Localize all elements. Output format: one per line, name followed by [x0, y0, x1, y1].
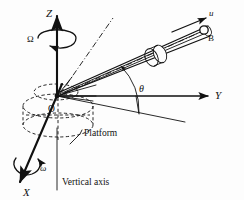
- theta-label: θ: [139, 83, 144, 94]
- inclined-tube: [60, 25, 213, 95]
- axis-y-label: Y: [215, 89, 223, 101]
- vertical-axis-annotation: Vertical axis: [62, 177, 110, 187]
- omega-upper-label: Ω: [27, 34, 34, 44]
- kinematics-diagram: Z Y X: [0, 0, 244, 200]
- bead-circle: [200, 26, 208, 34]
- collar-front-ellipse: [151, 43, 170, 65]
- theta-angle: θ: [121, 66, 144, 113]
- fan-line-3: [57, 96, 93, 101]
- tube-upper-wall: [60, 26, 208, 92]
- platform-annotation: Platform: [70, 128, 118, 144]
- figure-canvas: Z Y X: [0, 0, 244, 200]
- axis-x-label: X: [22, 186, 31, 198]
- platform-label: Platform: [84, 128, 118, 138]
- origin-label: O: [48, 104, 55, 114]
- axis-z: Z: [46, 7, 57, 96]
- omega-lower-label: ω: [40, 163, 46, 173]
- platform-leader-line: [70, 130, 82, 144]
- theta-arc: [121, 66, 139, 113]
- collar-bottom-edge: [154, 62, 163, 66]
- bead-label: B: [208, 33, 214, 43]
- vertical-axis-label: Vertical axis: [62, 177, 110, 187]
- velocity-u-label: u: [209, 8, 214, 18]
- omega-upper-rotation: Ω: [27, 30, 76, 48]
- axis-z-label: Z: [46, 7, 53, 19]
- tube-projection-line: [57, 96, 185, 122]
